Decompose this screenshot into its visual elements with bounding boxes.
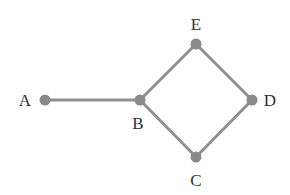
graph-diagram: A B E D C	[0, 0, 290, 195]
node-c	[191, 152, 202, 163]
node-label-b: B	[132, 114, 143, 133]
node-a	[40, 95, 51, 106]
labels-group: A B E D C	[19, 15, 276, 190]
edge-b-e	[140, 44, 196, 100]
edge-d-c	[196, 100, 252, 157]
edges-group	[45, 44, 252, 157]
node-label-d: D	[264, 91, 276, 110]
edge-c-b	[140, 100, 196, 157]
node-label-e: E	[191, 15, 201, 34]
edge-e-d	[196, 44, 252, 100]
node-d	[247, 95, 258, 106]
node-b	[135, 95, 146, 106]
node-label-c: C	[190, 171, 201, 190]
node-label-a: A	[19, 91, 32, 110]
node-e	[191, 39, 202, 50]
